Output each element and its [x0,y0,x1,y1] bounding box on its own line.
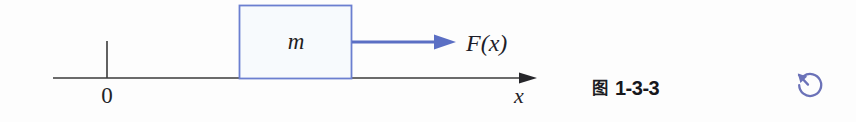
physics-diagram: m F(x) 0 x [0,0,856,122]
origin-label: 0 [101,83,113,108]
figure-caption: 图 1-3-3 [592,74,659,102]
force-arrow-head-icon [434,35,456,50]
figure-number: 1-3-3 [615,77,659,100]
figure-glyph-icon: 图 [592,80,608,97]
mass-label: m [288,29,305,54]
rotate-counterclockwise-icon[interactable] [791,66,829,104]
x-axis-arrowhead [519,73,537,84]
figure-screenshot: m F(x) 0 x 图 1-3-3 [0,0,856,122]
x-axis-label: x [513,83,524,108]
force-label: F(x) [465,30,507,56]
